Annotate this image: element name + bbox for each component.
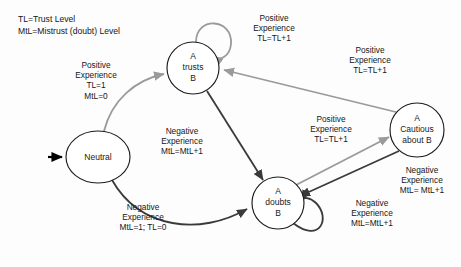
edge-label-line: MtL=1; TL=0: [100, 222, 186, 232]
edge-label-line: TL=1: [53, 80, 139, 90]
edge-label-line: Positive: [330, 45, 410, 55]
edge-label-cautious-to-trusts: Positive Experience TL=TL+1: [330, 45, 410, 76]
edge-label-cautious-to-doubts: Negative Experience MtL= MtL+1: [384, 165, 460, 196]
edge-label-neutral-to-trusts: Positive Experience TL=1 MtL=0: [53, 60, 139, 101]
legend-line-mtl: MtL=Mistrust (doubt) Level: [18, 26, 120, 38]
node-a-cautious-about-b-label-2: about B: [402, 135, 432, 145]
legend: TL=Trust Level MtL=Mistrust (doubt) Leve…: [18, 14, 120, 37]
edge-label-line: TL=TL+1: [330, 65, 410, 75]
node-a-trusts-b-label-0: A: [190, 51, 196, 61]
edge-label-line: Negative: [384, 165, 460, 175]
node-a-cautious-about-b-label-0: A: [414, 113, 420, 123]
node-a-cautious-about-b-label-1: Cautious: [400, 124, 434, 134]
edge-label-doubts-self-loop: Negative Experience MtL=MtL+1: [330, 198, 414, 229]
edge-cautious-to-trusts: [224, 70, 400, 113]
edge-label-line: Positive: [53, 60, 139, 70]
node-a-trusts-b-label-1: trusts: [183, 62, 204, 72]
node-a-doubts-b-label-2: B: [275, 208, 281, 218]
edge-label-line: MtL=MtL+1: [330, 218, 414, 228]
edge-label-line: Experience: [330, 55, 410, 65]
edge-label-line: Experience: [53, 70, 139, 80]
edge-label-neutral-to-doubts: Negative Experience MtL=1; TL=0: [100, 202, 186, 233]
diagram-canvas: Neutral A trusts B A doubts B A Cautious…: [0, 0, 461, 267]
edge-label-line: Experience: [291, 124, 371, 134]
edge-label-line: Experience: [384, 175, 460, 185]
edge-label-line: Experience: [142, 136, 222, 146]
node-a-doubts-b-label-0: A: [275, 186, 281, 196]
edge-label-line: MtL=MtL+1: [142, 146, 222, 156]
edge-label-line: Positive: [238, 13, 310, 23]
edge-label-line: MtL= MtL+1: [384, 185, 460, 195]
node-a-trusts-b-label-2: B: [190, 73, 196, 83]
edge-label-line: Experience: [330, 208, 414, 218]
edge-label-line: TL=TL+1: [238, 33, 310, 43]
edge-label-line: TL=TL+1: [291, 134, 371, 144]
edge-label-doubts-to-cautious: Positive Experience TL=TL+1: [291, 114, 371, 145]
node-a-doubts-b-label-1: doubts: [265, 197, 291, 207]
edge-label-line: Experience: [100, 212, 186, 222]
edge-label-trusts-to-doubts: Negative Experience MtL=MtL+1: [142, 126, 222, 157]
edge-label-line: Positive: [291, 114, 371, 124]
edge-label-trusts-self-loop: Positive Experience TL=TL+1: [238, 13, 310, 44]
edge-label-line: Negative: [142, 126, 222, 136]
node-neutral-label-0: Neutral: [84, 152, 112, 162]
edge-label-line: Experience: [238, 23, 310, 33]
edge-label-line: Negative: [330, 198, 414, 208]
edge-label-line: MtL=0: [53, 91, 139, 101]
legend-line-tl: TL=Trust Level: [18, 14, 120, 26]
edge-label-line: Negative: [100, 202, 186, 212]
